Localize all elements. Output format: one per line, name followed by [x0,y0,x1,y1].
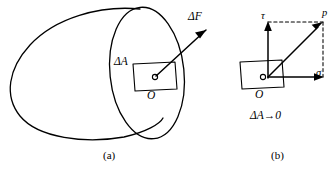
delta-force-label-a: ΔF [188,11,202,23]
cut-face-ellipse-a [103,3,190,142]
delta-force-arrow-a [156,30,206,76]
panel-caption-a: (a) [103,150,115,161]
origin-label-a: O [147,90,155,102]
area-limit-label-b: ΔA→0 [250,110,281,122]
figure-vector-graphics [0,0,333,173]
shear-stress-label-b: τ [261,11,265,22]
delta-force-arrowhead-a [195,30,206,39]
delta-area-label-a: ΔA [114,56,128,68]
panel-caption-b: (b) [271,150,284,161]
point-o-marker-b [260,74,265,79]
body-outline-a [10,8,163,139]
total-stress-arrow-b [268,27,318,77]
figure-canvas: ΔF ΔA O (a) τ p σ O ΔA→0 (b) [0,0,333,173]
normal-stress-label-b: σ [316,68,321,79]
origin-label-b: O [255,89,263,101]
total-stress-label-b: p [322,8,327,19]
